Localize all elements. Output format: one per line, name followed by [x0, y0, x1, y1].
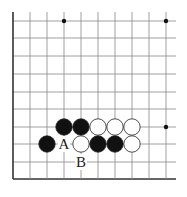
white-stone-icon — [124, 119, 140, 135]
white-stone-icon — [73, 136, 89, 152]
star-point-icon — [164, 125, 168, 129]
star-point-icon — [62, 19, 66, 23]
black-stone-icon — [39, 136, 55, 152]
white-stone-icon — [124, 136, 140, 152]
black-stone-icon — [107, 136, 123, 152]
white-stone-icon — [90, 119, 106, 135]
black-stone-icon — [73, 119, 89, 135]
black-stone-icon — [90, 136, 106, 152]
point-label-a: A — [59, 136, 70, 152]
black-stone-icon — [56, 119, 72, 135]
white-stone-icon — [107, 119, 123, 135]
point-label-b: B — [76, 154, 86, 170]
star-point-icon — [164, 19, 168, 23]
go-board: AB — [0, 0, 187, 197]
